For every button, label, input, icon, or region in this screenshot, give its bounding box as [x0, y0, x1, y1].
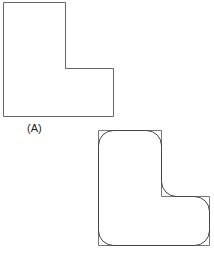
- l-shape-sharp-a: [4, 3, 114, 117]
- l-shape-sharp-b: [99, 131, 210, 246]
- panel-a-label: (A): [27, 122, 42, 134]
- l-shape-rounded-b: [99, 131, 210, 246]
